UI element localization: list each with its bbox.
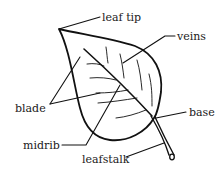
label-base: base [189,106,215,119]
midrib-leader [62,85,120,145]
leafstalk-end [170,154,175,160]
label-blade: blade [15,102,46,115]
leaf-diagram: leaf tip veins blade base midrib leafsta… [0,0,222,187]
blade-leader-upper [50,57,80,104]
label-leaf-tip: leaf tip [102,11,141,24]
midrib-line [84,49,152,116]
label-leafstalk: leafstalk [82,153,130,166]
leafstalk-shape [151,116,174,155]
blade-leader-lower [50,93,100,104]
leafstalk-leader [126,143,164,157]
leaf-outline [59,29,161,140]
label-midrib: midrib [23,139,60,152]
label-veins: veins [176,30,206,43]
leaf-tip-leader [59,17,100,29]
veins-leader [123,36,175,63]
base-leader [156,112,186,118]
